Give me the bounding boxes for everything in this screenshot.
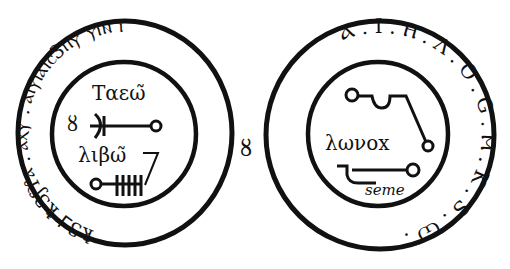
right-inner-word: λωνοx [325,131,390,155]
seven-hook-icon [143,153,158,185]
key-sigil-icon [90,114,161,138]
left-inner-line1: Ταεω̃ [92,81,146,105]
left-seal: ꝁ3⅃ ꝁ3ʃϒⲁ . ⲁⲭⲩ . ⲁⲓⲩⲓⲁⲓⲥ3ⲡⲩ ⲩⲓⲛ ⲓ Ταεω̃… [9,14,232,248]
seals-canvas: ꝁ3⅃ ꝁ3ʃϒⲁ . ⲁⲭⲩ . ⲁⲓⲩⲓⲁⲓⲥ3ⲡⲩ ⲩⲓⲛ ⲓ Ταεω̃… [0,0,510,269]
bars-sigil-icon [91,175,141,196]
right-inner-caption: seme [365,181,405,199]
left-inner-line2: λιβω̃ [78,143,126,167]
left-side-glyph: ȣ [67,112,78,136]
separator-glyph: ȣ [240,136,252,161]
right-seal: Ⲁ . I . Ⲏ . Λ . O . G . Ⲙ . K . S . Ѡ̃ .… [266,14,501,253]
